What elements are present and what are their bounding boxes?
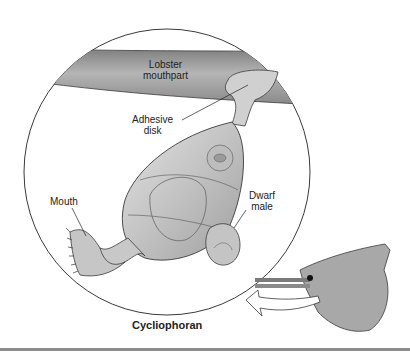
- cycliophoran-diagram: Lobster mouthpart Adhesive disk Mouth Dw…: [0, 0, 410, 360]
- diagram-illustration: [0, 0, 410, 360]
- dwarf-male: [206, 224, 240, 265]
- label-line: Dwarf: [249, 190, 275, 201]
- label-dwarf-male: Dwarf male: [249, 190, 275, 212]
- label-line: Adhesive: [132, 114, 173, 125]
- figure-caption: Cycliophoran: [132, 319, 202, 331]
- label-line: male: [249, 201, 275, 212]
- label-line: disk: [132, 125, 173, 136]
- label-mouth: Mouth: [50, 196, 78, 207]
- label-adhesive-disk: Adhesive disk: [132, 114, 173, 136]
- bottom-rule: [0, 348, 410, 351]
- label-lobster-mouthpart: Lobster mouthpart: [143, 59, 188, 81]
- label-line: Lobster: [143, 59, 188, 70]
- label-line: mouthpart: [143, 70, 188, 81]
